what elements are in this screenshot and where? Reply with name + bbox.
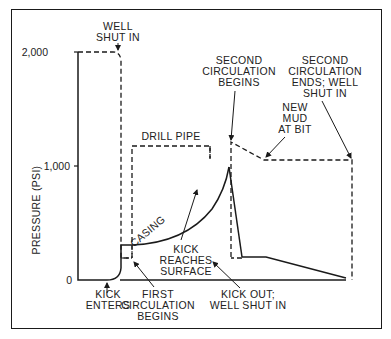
first-circulation-marker: [121, 245, 132, 258]
svg-text:SURFACE: SURFACE: [160, 265, 212, 277]
y-tick-2000: 2,000: [22, 46, 48, 58]
label-kick-out-well-shut-in: KICK OUT; WELL SHUT IN: [210, 262, 287, 311]
svg-text:BEGINS: BEGINS: [137, 310, 178, 322]
label-well-shut-in: WELL SHUT IN: [96, 20, 140, 50]
pressure-chart: 2,000 1,000 0 PRESSURE (PSI) WELL: [0, 0, 391, 339]
svg-text:SHUT IN: SHUT IN: [303, 87, 347, 99]
svg-text:BEGINS: BEGINS: [218, 76, 259, 88]
svg-text:AT BIT: AT BIT: [278, 123, 312, 135]
label-drill-pipe: DRILL PIPE: [141, 130, 200, 142]
y-tick-0: 0: [66, 274, 72, 286]
label-second-circulation-begins: SECOND CIRCULATION BEGINS: [202, 54, 276, 140]
svg-text:SHUT IN: SHUT IN: [96, 31, 140, 43]
svg-text:WELL SHUT IN: WELL SHUT IN: [210, 299, 287, 311]
y-axis-label: PRESSURE (PSI): [30, 166, 42, 255]
label-new-mud-at-bit: NEW MUD AT BIT: [266, 101, 312, 157]
y-tick-1000: 1,000: [44, 160, 70, 172]
label-kick-reaches-surface: KICK REACHES SURFACE: [160, 190, 213, 277]
